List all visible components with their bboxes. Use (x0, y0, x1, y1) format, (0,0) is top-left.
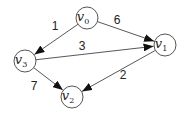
node-v2: v2 (61, 86, 83, 108)
node-v1: v1 (154, 34, 176, 56)
edge-weight-label: 2 (120, 68, 127, 82)
node-label-subscript: 0 (84, 17, 89, 26)
edge-weight-label: 3 (79, 39, 86, 53)
edge-v3-v1 (36, 46, 154, 59)
node-label-subscript: 1 (162, 44, 167, 53)
nodes-layer: v0v1v2v3 (14, 7, 176, 108)
directed-graph-diagram: 16327 v0v1v2v3 (0, 0, 189, 117)
edge-v0-v1 (97, 22, 154, 42)
node-v0: v0 (76, 7, 98, 29)
edge-weight-label: 7 (31, 79, 38, 93)
edge-v3-v2 (34, 68, 63, 90)
node-v3: v3 (14, 50, 36, 72)
edge-weight-label: 1 (52, 19, 59, 33)
node-label-subscript: 3 (22, 60, 27, 69)
node-label-subscript: 2 (69, 96, 74, 105)
edge-weight-label: 6 (114, 13, 121, 27)
